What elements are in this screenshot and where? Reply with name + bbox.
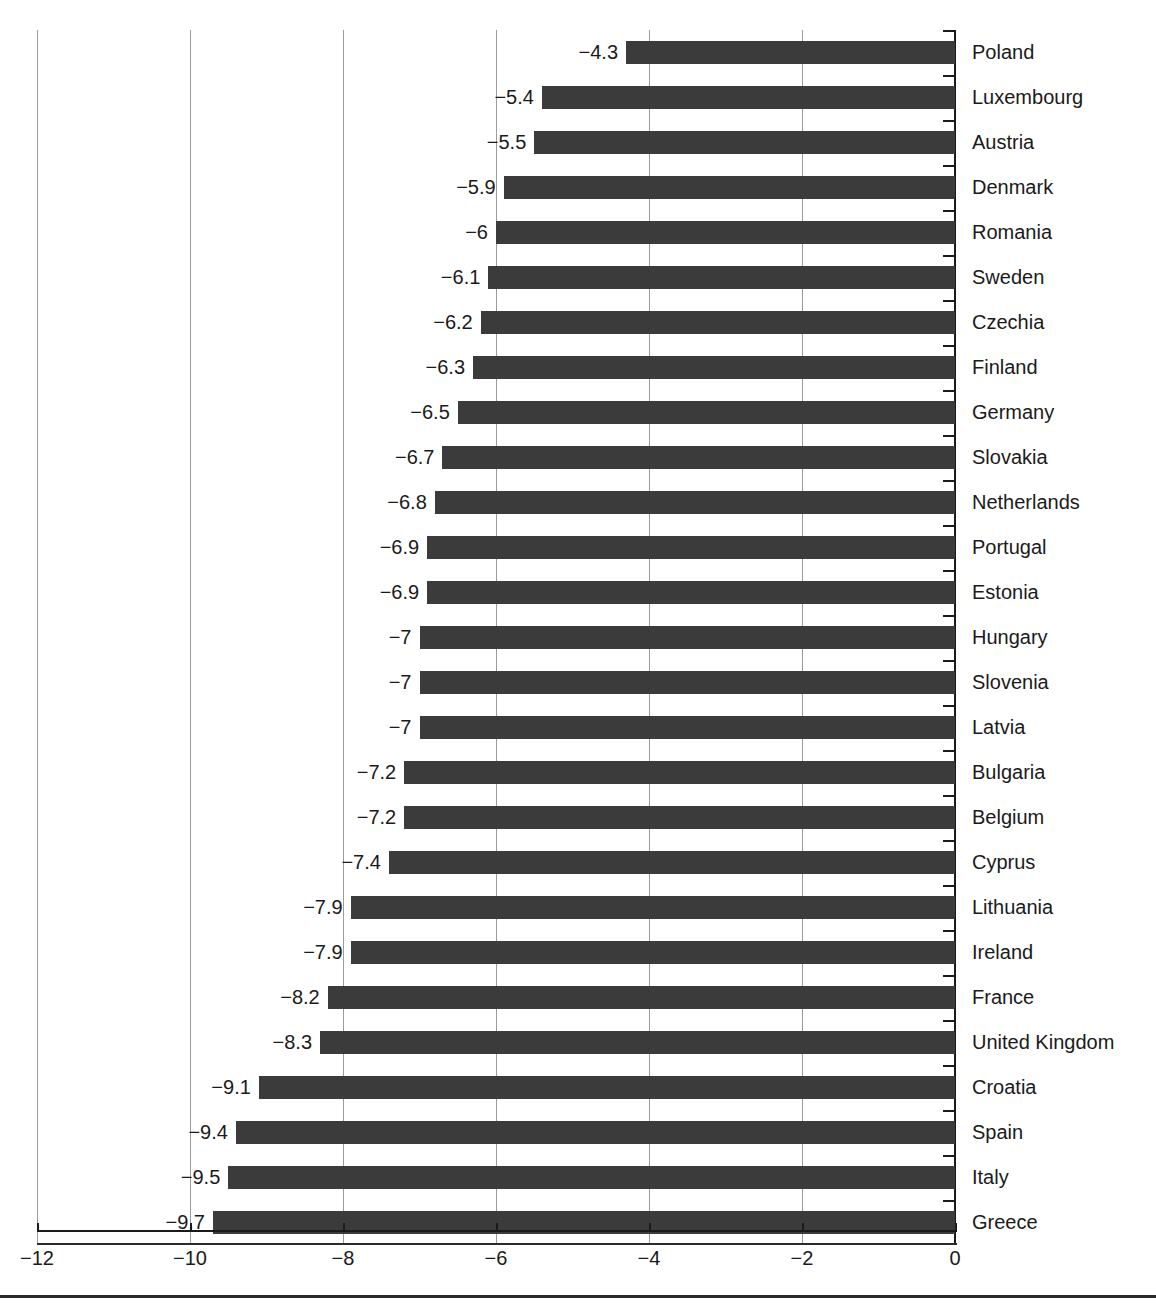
category-label: Hungary	[972, 624, 1048, 650]
chart-row: −7.4Cyprus	[0, 840, 1156, 885]
x-axis-tick-label: 0	[920, 1246, 990, 1270]
bar-value-label: −5.4	[446, 85, 534, 109]
category-tick	[943, 255, 956, 257]
category-tick	[943, 705, 956, 707]
category-label: Czechia	[972, 309, 1044, 335]
chart-row: −6.1Sweden	[0, 255, 1156, 300]
category-tick	[943, 210, 956, 212]
category-tick	[943, 1065, 956, 1067]
category-label: Sweden	[972, 264, 1044, 290]
x-axis-tick-label: −10	[155, 1246, 225, 1270]
category-tick	[943, 615, 956, 617]
bar-value-label: −8.2	[232, 985, 320, 1009]
chart-row: −7.2Belgium	[0, 795, 1156, 840]
chart-row: −9.1Croatia	[0, 1065, 1156, 1110]
bar-value-label: −6.9	[331, 535, 419, 559]
category-label: Portugal	[972, 534, 1047, 560]
bar-value-label: −9.5	[132, 1165, 220, 1189]
x-axis-tick	[649, 1223, 651, 1232]
chart-row: −7.9Lithuania	[0, 885, 1156, 930]
bar-value-label: −9.1	[163, 1075, 251, 1099]
category-label: Austria	[972, 129, 1034, 155]
chart-row: −5.4Luxembourg	[0, 75, 1156, 120]
category-tick	[943, 300, 956, 302]
x-axis-tick-label: −4	[614, 1246, 684, 1270]
chart-row: −6.9Portugal	[0, 525, 1156, 570]
bar	[420, 626, 956, 649]
category-label: Romania	[972, 219, 1052, 245]
chart-row: −9.5Italy	[0, 1155, 1156, 1200]
category-label: Slovenia	[972, 669, 1049, 695]
bar-value-label: −6	[400, 220, 488, 244]
bar	[427, 536, 955, 559]
clipped-title-strip	[0, 0, 1156, 8]
bar	[473, 356, 955, 379]
category-tick	[943, 480, 956, 482]
x-axis-tick	[190, 1223, 192, 1232]
bar	[404, 806, 955, 829]
chart-row: −7.2Bulgaria	[0, 750, 1156, 795]
category-tick	[943, 975, 956, 977]
bar-value-label: −7	[324, 670, 412, 694]
chart-row: −7Slovenia	[0, 660, 1156, 705]
chart-row: −8.2France	[0, 975, 1156, 1020]
bar-value-label: −7.9	[255, 895, 343, 919]
category-label: Denmark	[972, 174, 1053, 200]
category-label: United Kingdom	[972, 1029, 1114, 1055]
category-label: Latvia	[972, 714, 1025, 740]
category-label: Italy	[972, 1164, 1009, 1190]
category-label: Croatia	[972, 1074, 1036, 1100]
chart-row: −7.9Ireland	[0, 930, 1156, 975]
category-label: Estonia	[972, 579, 1039, 605]
chart-row: −8.3United Kingdom	[0, 1020, 1156, 1065]
bar	[351, 896, 955, 919]
bar	[320, 1031, 955, 1054]
x-axis-tick	[496, 1223, 498, 1232]
category-tick	[943, 570, 956, 572]
bar-value-label: −7	[324, 715, 412, 739]
bar	[228, 1166, 955, 1189]
page-bottom-rule	[0, 1295, 1156, 1298]
category-tick	[943, 30, 956, 32]
bar	[534, 131, 955, 154]
bar	[259, 1076, 955, 1099]
chart-row: −6.2Czechia	[0, 300, 1156, 345]
category-label: France	[972, 984, 1034, 1010]
category-tick	[943, 1020, 956, 1022]
bar	[496, 221, 955, 244]
category-tick	[943, 885, 956, 887]
category-label: Ireland	[972, 939, 1033, 965]
bar-value-label: −6.3	[377, 355, 465, 379]
chart-row: −6.9Estonia	[0, 570, 1156, 615]
bar	[328, 986, 955, 1009]
category-tick	[943, 1155, 956, 1157]
bar-value-label: −4.3	[530, 40, 618, 64]
category-tick	[943, 930, 956, 932]
category-tick	[943, 525, 956, 527]
bar-value-label: −7.4	[293, 850, 381, 874]
bar	[427, 581, 955, 604]
category-tick	[943, 660, 956, 662]
x-axis-tick	[37, 1223, 39, 1232]
category-label: Luxembourg	[972, 84, 1083, 110]
category-tick	[943, 120, 956, 122]
category-label: Belgium	[972, 804, 1044, 830]
bar	[504, 176, 955, 199]
bar	[626, 41, 955, 64]
category-label: Lithuania	[972, 894, 1053, 920]
chart-row: −5.5Austria	[0, 120, 1156, 165]
category-label: Slovakia	[972, 444, 1048, 470]
chart-row: −4.3Poland	[0, 30, 1156, 75]
bar-value-label: −8.3	[224, 1030, 312, 1054]
bar-value-label: −5.9	[408, 175, 496, 199]
category-tick	[943, 840, 956, 842]
chart-row: −9.4Spain	[0, 1110, 1156, 1155]
bar	[542, 86, 955, 109]
bar-value-label: −7.9	[255, 940, 343, 964]
bar-chart-plot-area: −4.3Poland−5.4Luxembourg−5.5Austria−5.9D…	[0, 30, 1156, 1245]
category-tick	[943, 435, 956, 437]
category-tick	[943, 75, 956, 77]
bar-value-label: −6.5	[362, 400, 450, 424]
category-label: Germany	[972, 399, 1054, 425]
bar-value-label: −6.2	[385, 310, 473, 334]
